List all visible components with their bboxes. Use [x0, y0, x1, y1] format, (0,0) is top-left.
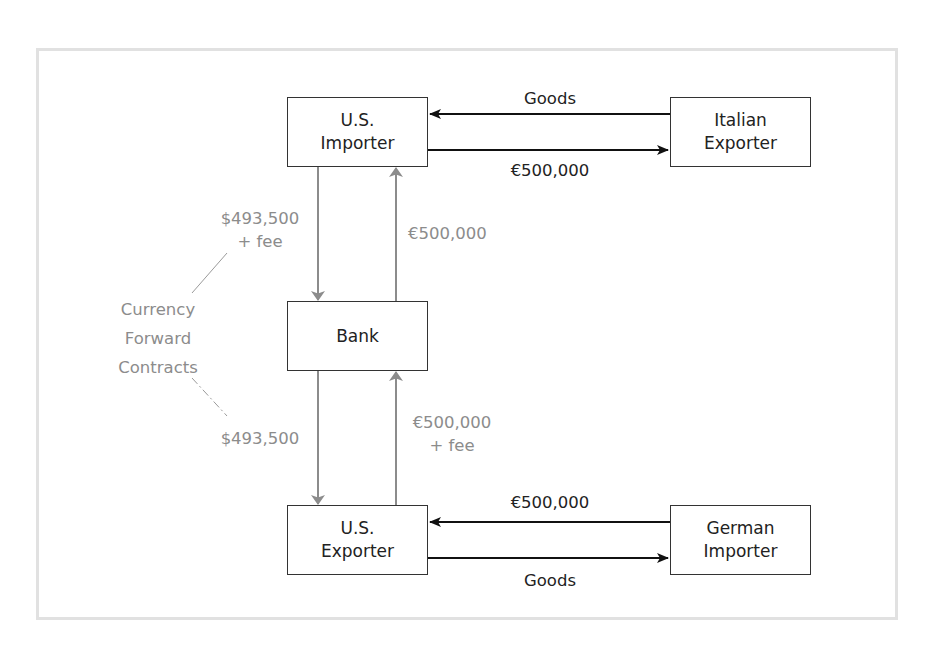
node-german-importer: German Importer: [670, 505, 811, 575]
node-label: Italian: [714, 109, 767, 132]
node-label: Exporter: [321, 540, 394, 563]
node-label: U.S.: [340, 517, 374, 540]
node-us-exporter: U.S. Exporter: [287, 505, 428, 575]
label-usd-plus-fee: $493,500 + fee: [212, 207, 308, 253]
node-bank: Bank: [287, 301, 428, 371]
label-goods-bottom: Goods: [500, 569, 600, 592]
label-usd-to-exporter: $493,500: [212, 427, 308, 450]
node-label: Importer: [321, 132, 395, 155]
node-label: Exporter: [704, 132, 777, 155]
node-label: German: [706, 517, 774, 540]
label-euro-to-importer: €500,000: [408, 222, 487, 245]
label-euro-plus-fee: €500,000 + fee: [406, 411, 498, 457]
node-label: Importer: [704, 540, 778, 563]
label-euro-bottom: €500,000: [480, 491, 620, 514]
leader-line-lower: [192, 378, 227, 416]
leader-line-upper: [192, 253, 227, 293]
node-label: Bank: [336, 325, 379, 348]
node-us-importer: U.S. Importer: [287, 97, 428, 167]
label-euro-top: €500,000: [480, 159, 620, 182]
node-italian-exporter: Italian Exporter: [670, 97, 811, 167]
node-label: U.S.: [340, 109, 374, 132]
label-goods-top: Goods: [500, 87, 600, 110]
annotation-currency-forward-contracts: Currency Forward Contracts: [108, 295, 208, 382]
